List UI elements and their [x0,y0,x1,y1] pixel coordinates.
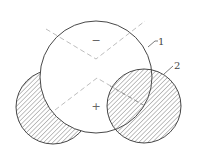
hydrogen-atom-right [107,69,181,143]
negative-charge-sign: − [91,34,100,47]
label-2-leader [164,66,173,74]
label-oxygen-1: 1 [158,36,164,47]
label-hydrogen-2: 2 [174,60,180,71]
positive-charge-sign: + [91,100,100,113]
label-1-leader [148,41,158,47]
water-molecule-diagram: − + 1 2 [0,0,197,156]
